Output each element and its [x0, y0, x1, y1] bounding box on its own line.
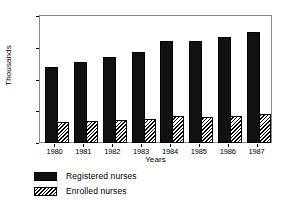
chart-legend: Registered nurses Enrolled nurses [34, 169, 264, 199]
legend-swatch-solid-icon [34, 172, 57, 181]
bar-enrolled-nurses [57, 122, 69, 143]
bar-enrolled-nurses [144, 119, 156, 143]
legend-swatch-hatch-icon [34, 187, 57, 196]
bar-group [45, 16, 64, 143]
bar-enrolled-nurses [115, 120, 127, 143]
y-tick-mark [36, 143, 39, 144]
plot-area [40, 16, 271, 143]
bar-enrolled-nurses [201, 117, 213, 143]
legend-label-registered-nurses: Registered nurses [66, 172, 137, 181]
x-axis-label: Years [40, 155, 271, 164]
legend-item-enrolled-nurses: Enrolled nurses [34, 184, 264, 199]
bar-enrolled-nurses [86, 121, 98, 143]
bar-enrolled-nurses [259, 114, 271, 143]
bar-enrolled-nurses [172, 116, 184, 143]
bar-chart-figure: Thousands 05101520 198019811982198319841… [0, 0, 297, 204]
bar-enrolled-nurses [230, 116, 242, 143]
bar-group [132, 16, 151, 143]
bar-group [247, 16, 266, 143]
bar-group [74, 16, 93, 143]
bar-group [218, 16, 237, 143]
legend-label-enrolled-nurses: Enrolled nurses [66, 187, 127, 196]
y-axis-label: Thousands [4, 31, 13, 101]
bar-group [189, 16, 208, 143]
bar-group [160, 16, 179, 143]
legend-item-registered-nurses: Registered nurses [34, 169, 264, 184]
bar-group [103, 16, 122, 143]
